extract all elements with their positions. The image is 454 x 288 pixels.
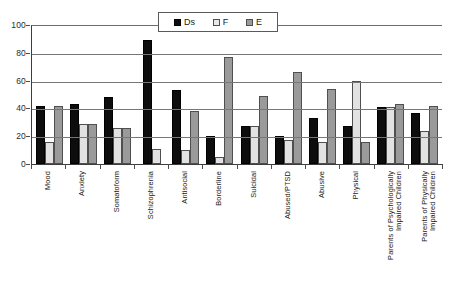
bar-e	[122, 128, 131, 164]
plot-area	[31, 25, 442, 164]
legend-item-f: F	[213, 18, 229, 27]
y-tick-mark	[26, 136, 30, 137]
bar-group	[408, 26, 442, 164]
legend-item-ds: Ds	[174, 18, 195, 27]
x-tick-mark	[134, 164, 135, 169]
x-axis-label-line: Mood	[44, 171, 52, 190]
x-axis-label-line: Abused/PTSD	[284, 171, 292, 219]
x-axis-label-line: Suicidal	[250, 171, 258, 198]
x-axis-label-line: Somatoform	[113, 171, 121, 212]
bar-f	[386, 107, 395, 164]
bar-group	[32, 26, 66, 164]
bar-f	[352, 81, 361, 164]
bar-e	[327, 89, 336, 164]
bar-e	[88, 124, 97, 164]
y-tick-label: 60	[16, 76, 26, 85]
x-axis-label-line: Abusive	[318, 171, 326, 198]
bar-group	[237, 26, 271, 164]
y-tick-label: 20	[16, 132, 26, 141]
bar-ds	[104, 97, 113, 164]
bar-f	[79, 124, 88, 164]
x-axis-label-line: Impaired Children	[429, 171, 437, 231]
bar-ds	[377, 107, 386, 164]
bar-group	[340, 26, 374, 164]
bar-f	[45, 142, 54, 164]
bar-e	[429, 106, 438, 164]
legend-swatch-icon	[246, 19, 253, 26]
gridline	[32, 137, 442, 138]
bar-ds	[275, 136, 284, 164]
x-axis-label-line: Antisocial	[181, 171, 189, 204]
x-tick-mark	[305, 164, 306, 169]
bar-e	[54, 106, 63, 164]
x-axis-label-line: Anxiety	[78, 171, 86, 196]
gridline	[32, 54, 442, 55]
x-tick-mark	[271, 164, 272, 169]
bar-chart: 100806040200 MoodAnxietySomatoformSchizo…	[0, 0, 454, 288]
bar-group	[100, 26, 134, 164]
bar-f	[420, 131, 429, 164]
y-tick-mark	[26, 108, 30, 109]
x-axis-ticks	[31, 164, 442, 169]
x-axis-label-line: Borderline	[215, 171, 223, 206]
x-tick-mark	[31, 164, 32, 169]
y-tick-mark	[26, 164, 30, 165]
bar-group	[305, 26, 339, 164]
y-axis: 100806040200	[0, 0, 30, 288]
x-tick-mark	[65, 164, 66, 169]
bar-e	[395, 104, 404, 164]
bar-f	[215, 157, 224, 164]
bar-f	[152, 149, 161, 164]
bar-group	[271, 26, 305, 164]
bar-ds	[70, 104, 79, 164]
bar-e	[293, 72, 302, 164]
bar-ds	[411, 113, 420, 164]
x-tick-mark	[442, 164, 443, 169]
bar-ds	[206, 136, 215, 164]
bar-group	[66, 26, 100, 164]
y-tick-label: 40	[16, 104, 26, 113]
bar-ds	[36, 106, 45, 164]
bar-e	[259, 96, 268, 164]
bar-group	[135, 26, 169, 164]
bar-group	[203, 26, 237, 164]
bar-group	[374, 26, 408, 164]
y-tick-label: 80	[16, 49, 26, 58]
y-tick-mark	[26, 81, 30, 82]
x-axis-label-line: Impaired Children	[395, 171, 403, 231]
bar-e	[361, 142, 370, 164]
bar-f	[318, 142, 327, 164]
y-tick-label: 100	[11, 21, 26, 30]
y-tick-mark	[26, 25, 30, 26]
gridline	[32, 82, 442, 83]
x-tick-mark	[100, 164, 101, 169]
bar-ds	[343, 126, 352, 164]
x-tick-mark	[339, 164, 340, 169]
x-axis-label-line: Physical	[352, 171, 360, 199]
bar-group	[169, 26, 203, 164]
bar-e	[224, 57, 233, 164]
x-axis-label-line: Schizophrenia	[147, 171, 155, 219]
x-tick-mark	[168, 164, 169, 169]
x-tick-mark	[408, 164, 409, 169]
chart-legend: DsFE	[158, 12, 278, 32]
bar-ds	[172, 90, 181, 164]
y-tick-mark	[26, 53, 30, 54]
legend-swatch-icon	[213, 19, 220, 26]
x-tick-mark	[374, 164, 375, 169]
bar-ds	[241, 126, 250, 164]
bar-ds	[309, 118, 318, 164]
bar-f	[113, 128, 122, 164]
x-tick-mark	[237, 164, 238, 169]
legend-label: Ds	[184, 18, 195, 27]
legend-swatch-icon	[174, 19, 181, 26]
bar-f	[250, 126, 259, 164]
x-axis-labels: MoodAnxietySomatoformSchizophreniaAntiso…	[31, 171, 442, 288]
legend-label: F	[223, 18, 229, 27]
bar-groups	[32, 26, 442, 164]
legend-label: E	[256, 18, 262, 27]
legend-item-e: E	[246, 18, 262, 27]
bar-f	[284, 140, 293, 164]
gridline	[32, 109, 442, 110]
bar-ds	[143, 40, 152, 164]
